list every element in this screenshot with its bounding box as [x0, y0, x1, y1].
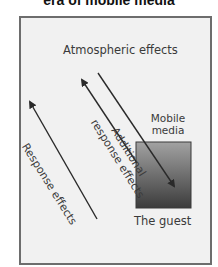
label-mobile-media-line1: Mobile	[140, 112, 196, 124]
label-mobile-media: Mobile media	[140, 112, 196, 136]
label-mobile-media-line2: media	[140, 124, 196, 136]
label-the-guest: The guest	[134, 215, 191, 228]
label-atmospheric-effects: Atmospheric effects	[63, 44, 178, 57]
